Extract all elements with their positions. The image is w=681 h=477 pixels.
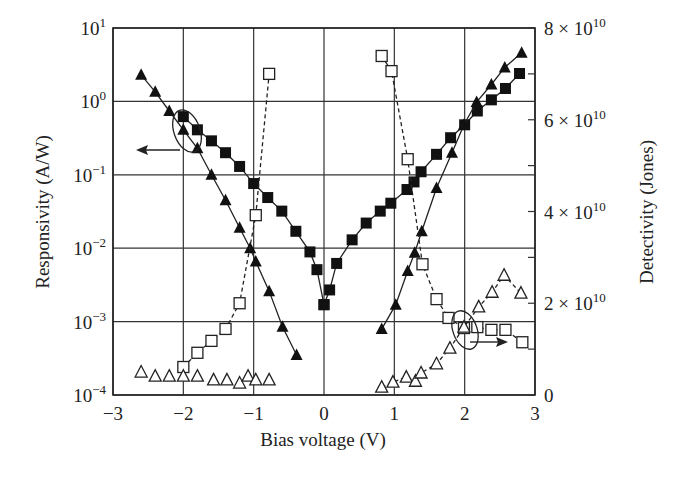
open-square-marker xyxy=(234,298,245,309)
x-tick-label: −1 xyxy=(244,403,264,424)
x-axis-ticks: −3−2−10123 xyxy=(103,403,540,424)
open-triangle-marker xyxy=(135,366,147,378)
filled-triangle-marker xyxy=(376,323,388,335)
filled-square-marker xyxy=(311,264,322,275)
open-triangle-marker xyxy=(263,373,275,385)
filled-triangle-marker xyxy=(402,264,414,276)
y2-tick-label: 6 × 1010 xyxy=(544,107,606,131)
filled-square-marker xyxy=(290,226,301,237)
open-square-marker xyxy=(402,154,413,165)
filled-triangle-marker xyxy=(390,298,402,310)
series-line xyxy=(382,56,523,342)
filled-square-marker xyxy=(304,246,315,257)
open-triangle-marker xyxy=(208,373,220,385)
chart: −3−2−10123 10110010−110−210−310−4 8 × 10… xyxy=(0,0,681,477)
open-triangle-marker xyxy=(149,370,161,382)
y-tick-label: 10−4 xyxy=(73,382,106,406)
open-triangle-marker xyxy=(498,269,510,281)
filled-square-marker xyxy=(375,206,386,217)
x-tick-label: 0 xyxy=(319,403,329,424)
filled-square-marker xyxy=(385,198,396,209)
filled-square-marker xyxy=(431,149,442,160)
open-triangle-marker xyxy=(221,373,233,385)
y-tick-label: 101 xyxy=(81,15,107,39)
filled-square-marker xyxy=(347,234,358,245)
y-tick-label: 100 xyxy=(81,88,107,112)
open-square-marker xyxy=(500,324,511,335)
open-square-marker xyxy=(206,335,217,346)
filled-triangle-marker xyxy=(205,168,217,180)
open-square-marker xyxy=(264,68,275,79)
open-triangle-marker xyxy=(444,342,456,354)
x-tick-label: −2 xyxy=(173,403,193,424)
filled-triangle-marker xyxy=(499,61,511,72)
filled-triangle-marker xyxy=(516,46,528,58)
y2-axis-ticks: 8 × 10106 × 10104 × 10102 × 10100 xyxy=(528,15,606,406)
y-tick-label: 10−3 xyxy=(73,309,106,333)
filled-triangle-marker xyxy=(234,221,246,233)
x-axis-title: Bias voltage (V) xyxy=(260,429,386,451)
filled-triangle-marker xyxy=(135,68,147,80)
open-square-marker xyxy=(220,323,231,334)
y2-axis-title: Detectivity (Jones) xyxy=(636,140,658,284)
filled-square-marker xyxy=(206,135,217,146)
y2-tick-label: 4 × 1010 xyxy=(544,199,606,223)
filled-triangle-marker xyxy=(431,182,443,194)
filled-square-marker xyxy=(500,83,511,94)
filled-triangle-marker xyxy=(263,285,275,297)
filled-square-marker xyxy=(514,68,525,79)
x-tick-label: 1 xyxy=(390,403,400,424)
filled-triangle-marker xyxy=(446,146,458,158)
series-line xyxy=(141,75,296,355)
filled-triangle-marker xyxy=(250,255,262,266)
filled-square-marker xyxy=(331,258,342,269)
filled-square-marker xyxy=(319,299,330,310)
series-filled-triangle xyxy=(135,46,528,360)
open-triangle-marker xyxy=(387,376,399,388)
filled-square-marker xyxy=(416,166,427,177)
open-square-marker xyxy=(376,50,387,61)
filled-square-marker xyxy=(324,284,335,295)
filled-square-marker xyxy=(276,206,287,217)
x-tick-label: −3 xyxy=(103,403,123,424)
open-triangle-marker xyxy=(515,287,527,299)
filled-square-marker xyxy=(262,192,273,203)
open-square-marker xyxy=(417,259,428,270)
open-triangle-marker xyxy=(376,381,388,393)
y-tick-label: 10−1 xyxy=(73,162,106,186)
open-triangle-marker xyxy=(486,286,498,298)
open-square-marker xyxy=(431,294,442,305)
y-tick-label: 10−2 xyxy=(73,235,106,259)
filled-triangle-marker xyxy=(220,194,232,206)
filled-square-marker xyxy=(486,94,497,105)
open-triangle-marker xyxy=(191,370,203,382)
open-square-marker xyxy=(192,347,203,358)
filled-square-marker xyxy=(234,161,245,172)
filled-square-marker xyxy=(220,147,231,158)
x-tick-label: 2 xyxy=(460,403,470,424)
open-triangle-marker xyxy=(400,371,412,383)
y2-tick-label: 2 × 1010 xyxy=(544,290,606,314)
data-series xyxy=(135,46,528,392)
open-triangle-marker xyxy=(415,366,427,378)
filled-square-marker xyxy=(248,178,259,189)
y2-tick-label: 0 xyxy=(544,385,554,406)
open-square-marker xyxy=(486,324,497,335)
open-square-marker xyxy=(386,66,397,77)
grid-lines xyxy=(113,28,535,395)
filled-square-marker xyxy=(361,218,372,229)
x-tick-label: 3 xyxy=(530,403,540,424)
open-square-marker xyxy=(517,337,528,348)
filled-square-marker xyxy=(445,132,456,143)
open-square-marker xyxy=(250,210,261,221)
open-triangle-marker xyxy=(163,370,175,382)
y-axis-ticks: 10110010−110−210−310−4 xyxy=(73,15,106,406)
filled-square-marker xyxy=(178,111,189,122)
filled-triangle-marker xyxy=(291,349,303,361)
y-axis-title: Responsivity (A/W) xyxy=(32,135,54,289)
y2-tick-label: 8 × 1010 xyxy=(544,15,606,39)
